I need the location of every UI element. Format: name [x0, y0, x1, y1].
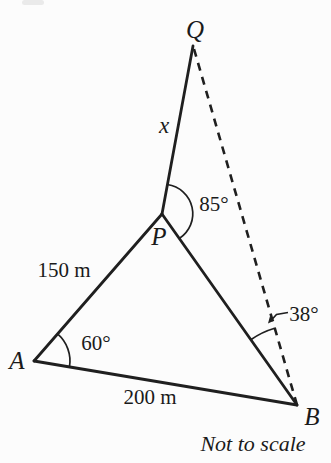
angle-label-60: 60°: [81, 331, 110, 355]
vertex-label-B: B: [304, 403, 319, 430]
scan-artifact: [22, 0, 44, 5]
side-label-150m: 150 m: [37, 258, 90, 282]
vertex-label-P: P: [150, 223, 166, 250]
edge-QB-dashed: [194, 49, 297, 405]
angle-arc-B: [251, 328, 275, 340]
side-label-x: x: [158, 113, 170, 138]
edge-PB: [162, 214, 297, 405]
geometry-diagram: Q P A B x 150 m 200 m 85° 60° 38° Not to…: [0, 0, 331, 463]
not-to-scale-note: Not to scale: [199, 431, 305, 456]
angle-arc-A: [58, 334, 70, 367]
angle-label-85: 85°: [199, 192, 228, 216]
triangle-figure: Q P A B x 150 m 200 m 85° 60° 38° Not to…: [0, 0, 331, 463]
angle-label-38: 38°: [289, 302, 318, 326]
vertex-label-A: A: [7, 347, 25, 374]
angle-arc-P: [167, 185, 192, 239]
vertex-label-Q: Q: [186, 16, 204, 43]
side-label-200m: 200 m: [123, 385, 176, 409]
